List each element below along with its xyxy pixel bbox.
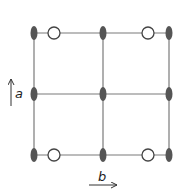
lattice-diagram: a b: [0, 0, 186, 193]
axis-b: b: [89, 169, 117, 185]
axis-a: a: [11, 79, 23, 106]
axis-a-label: a: [15, 86, 23, 101]
open-atom-icon: [48, 149, 60, 161]
filled-atom-icon: [166, 148, 173, 162]
filled-atom-icon: [100, 148, 107, 162]
axis-b-label: b: [98, 169, 106, 184]
filled-atom-icon: [100, 26, 107, 40]
open-atom-icon: [142, 27, 154, 39]
filled-atom-icon: [166, 26, 173, 40]
filled-atom-icon: [31, 148, 38, 162]
open-atom-icon: [142, 149, 154, 161]
filled-atom-icon: [166, 87, 173, 101]
filled-atom-icon: [31, 87, 38, 101]
filled-atom-icon: [31, 26, 38, 40]
filled-atom-icon: [100, 87, 107, 101]
open-atom-icon: [48, 27, 60, 39]
